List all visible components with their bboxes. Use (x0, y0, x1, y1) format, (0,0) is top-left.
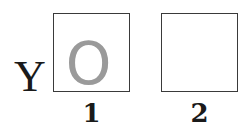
grid-cell-1[interactable]: O (53, 13, 130, 92)
column-label-1: 1 (53, 98, 130, 128)
row-label-y: Y (14, 55, 46, 99)
column-label-2: 2 (161, 98, 238, 128)
cell-mark-o: O (50, 35, 127, 93)
grid-cell-2[interactable] (161, 13, 238, 92)
